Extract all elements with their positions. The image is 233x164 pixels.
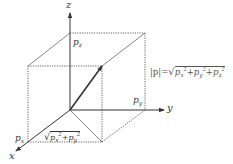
px-label: px bbox=[15, 134, 24, 144]
x-axis-label: x bbox=[9, 151, 15, 161]
z-axis-label: z bbox=[66, 0, 71, 10]
vector-p-arrow bbox=[70, 66, 102, 110]
magnitude-formula: |p|=√px2+py2+pz2 bbox=[150, 66, 225, 78]
top-right-edge bbox=[102, 33, 145, 66]
vector-diagram: z y x pz py px √px2+py2 |p|=√px2+py2+pz2 bbox=[0, 0, 233, 164]
planar-magnitude-formula: √px2+py2 bbox=[44, 131, 80, 143]
py-label: py bbox=[133, 96, 142, 106]
y-axis-label: y bbox=[167, 103, 173, 113]
pz-label: pz bbox=[73, 38, 82, 48]
diagram-canvas bbox=[0, 0, 233, 164]
bottom-right-edge bbox=[102, 110, 145, 142]
top-left-edge bbox=[28, 33, 70, 66]
